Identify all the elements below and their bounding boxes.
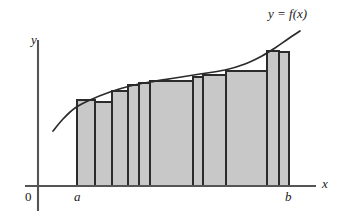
riemann-sum-figure: y 0 a b x y = f(x) [0, 0, 345, 221]
riemann-rect [128, 85, 139, 186]
lower-bound-label: a [74, 190, 81, 203]
riemann-rect [150, 81, 193, 186]
riemann-rect [267, 51, 279, 186]
curve-label: y = f(x) [268, 7, 307, 20]
upper-bound-label: b [285, 190, 292, 203]
riemann-rect [112, 91, 128, 186]
riemann-rect [279, 52, 289, 186]
riemann-rect [139, 83, 150, 186]
riemann-rect [95, 102, 112, 186]
origin-label: 0 [25, 190, 32, 203]
rectangles-group [77, 51, 289, 186]
y-axis-label: y [31, 33, 37, 46]
x-axis-label: x [322, 177, 328, 190]
riemann-rect [203, 75, 226, 186]
riemann-rect [193, 77, 203, 186]
riemann-rect [77, 100, 95, 186]
riemann-rect [226, 71, 267, 186]
figure-canvas [0, 0, 345, 221]
